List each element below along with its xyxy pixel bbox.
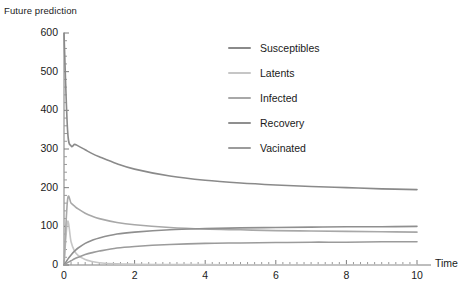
legend-item: Recovery: [228, 117, 304, 129]
series-line-susceptibles: [64, 33, 417, 190]
legend-item: Susceptibles: [228, 42, 320, 54]
legend-item: Vacinated: [228, 142, 306, 154]
legend-item: Infected: [228, 92, 297, 104]
series-line-vacinated: [64, 242, 417, 265]
legend-swatch-line-icon: [228, 47, 251, 49]
x-axis-tick-label: 4: [194, 269, 216, 281]
x-axis-tick-label: 10: [406, 269, 428, 281]
legend-swatch-line-icon: [228, 97, 251, 99]
legend-swatch-line-icon: [228, 122, 251, 124]
x-axis-tick-label: 0: [53, 269, 75, 281]
x-axis-tick-label: 2: [124, 269, 146, 281]
legend-label: Vacinated: [260, 142, 306, 154]
y-axis-tick-label: 100: [28, 219, 58, 231]
y-axis-tick-label: 400: [28, 103, 58, 115]
legend-swatch-line-icon: [228, 147, 251, 149]
y-axis-tick-label: 600: [28, 26, 58, 38]
legend-swatch-line-icon: [228, 72, 251, 74]
y-axis-tick-label: 500: [28, 65, 58, 77]
legend-item: Latents: [228, 67, 294, 79]
x-axis-tick-label: 8: [335, 269, 357, 281]
legend-label: Recovery: [260, 117, 304, 129]
series-line-infected: [64, 196, 417, 265]
x-axis-tick-label: 6: [265, 269, 287, 281]
x-axis-title: Time: [435, 257, 458, 269]
legend-label: Infected: [260, 92, 297, 104]
legend-label: Latents: [260, 67, 294, 79]
y-axis-tick-label: 300: [28, 142, 58, 154]
y-axis-tick-label: 200: [28, 181, 58, 193]
legend-label: Susceptibles: [260, 42, 320, 54]
